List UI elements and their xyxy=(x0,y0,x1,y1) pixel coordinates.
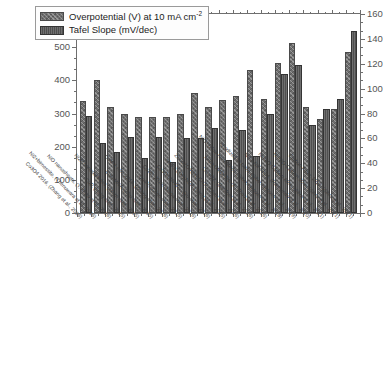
right-axis-tick xyxy=(360,114,365,115)
left-axis-tick-label: 300 xyxy=(54,109,70,119)
right-axis-minor-tick xyxy=(360,55,363,56)
right-axis-minor-tick xyxy=(360,180,363,181)
right-axis-tick-label: 140 xyxy=(367,34,383,44)
legend-label-overpotential: Overpotential (V) at 10 mA cm-2 xyxy=(69,11,202,22)
right-axis-minor-tick xyxy=(360,89,363,90)
bar-tafel-slope xyxy=(351,31,357,213)
right-axis-minor-tick xyxy=(360,64,363,65)
right-axis-tick-label: 0 xyxy=(367,208,372,218)
series-1-swatch xyxy=(40,12,64,21)
top-axis-tick xyxy=(360,10,361,14)
category-axis-labels: Co3O4 2016, (Zhang et al., 2016)Ni2+birn… xyxy=(76,216,361,381)
legend: Overpotential (V) at 10 mA cm-2 Tafel Sl… xyxy=(35,6,209,40)
left-axis-tick-label: 500 xyxy=(54,42,70,52)
bar-group xyxy=(344,14,358,213)
right-axis-minor-tick xyxy=(360,72,363,73)
right-axis-minor-tick xyxy=(360,80,363,81)
bar-tafel-slope xyxy=(337,99,343,213)
right-axis-minor-tick xyxy=(360,172,363,173)
right-axis-tick xyxy=(360,163,365,164)
right-axis-tick-label: 40 xyxy=(367,159,378,169)
right-axis-tick-label: 60 xyxy=(367,134,378,144)
right-axis-minor-tick xyxy=(360,122,363,123)
right-axis-minor-tick xyxy=(360,205,363,206)
right-axis-minor-tick xyxy=(360,47,363,48)
legend-entry-overpotential: Overpotential (V) at 10 mA cm-2 xyxy=(40,10,202,22)
right-axis-minor-tick xyxy=(360,196,363,197)
right-axis-tick-label: 80 xyxy=(367,109,378,119)
right-axis-tick xyxy=(360,14,365,15)
right-axis-minor-tick xyxy=(360,31,363,32)
left-axis-tick-label: 200 xyxy=(54,142,70,152)
right-axis-minor-tick xyxy=(360,130,363,131)
right-axis-minor-tick xyxy=(360,147,363,148)
legend-entry-tafel-slope: Tafel Slope (mV/dec) xyxy=(40,24,202,36)
right-axis-minor-tick xyxy=(360,22,363,23)
legend-label-overpotential-text: Overpotential (V) at 10 mA cm xyxy=(69,11,196,22)
right-axis-tick-label: 120 xyxy=(367,59,383,69)
right-axis-minor-tick xyxy=(360,39,363,40)
series-2-swatch xyxy=(40,26,64,35)
bar-group xyxy=(330,14,344,213)
right-axis-minor-tick xyxy=(360,105,363,106)
right-axis-tick xyxy=(360,188,365,189)
right-axis-minor-tick xyxy=(360,155,363,156)
left-axis-tick-label: 400 xyxy=(54,76,70,86)
right-axis-minor-tick xyxy=(360,138,363,139)
bar-chart-figure: 0100200300400500600 02040608010012014016… xyxy=(0,0,390,383)
legend-label-tafel-slope: Tafel Slope (mV/dec) xyxy=(69,25,157,35)
right-axis-minor-tick xyxy=(360,97,363,98)
right-axis-tick-label: 100 xyxy=(367,84,383,94)
right-axis-tick-label: 160 xyxy=(367,9,383,19)
legend-label-overpotential-superscript: -2 xyxy=(196,10,202,17)
right-axis-tick-label: 20 xyxy=(367,183,378,193)
